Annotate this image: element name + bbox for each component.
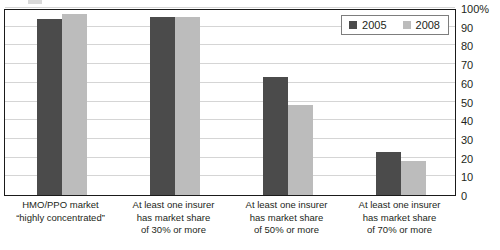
legend-label: 2008 xyxy=(416,19,440,31)
legend-swatch-icon xyxy=(403,21,411,29)
bar-2005-3 xyxy=(263,77,288,195)
y-tick-label-10: 10 xyxy=(461,172,473,183)
y-tick-label-20: 20 xyxy=(461,153,473,164)
y-tick-label-40: 40 xyxy=(461,116,473,127)
bar-2005-2 xyxy=(150,17,175,195)
top-crop-artifact xyxy=(28,0,42,4)
bar-group xyxy=(37,10,87,195)
x-axis: HMO/PPO market“highly concentrated”At le… xyxy=(4,199,456,247)
x-category-label-line: of 30% or more xyxy=(117,224,230,237)
legend-entry-2005: 2005 xyxy=(349,19,386,31)
y-tick-label-100: 100% xyxy=(461,4,489,15)
y-tick-label-60: 60 xyxy=(461,78,473,89)
bar-2008-3 xyxy=(288,105,313,195)
bar-2005-1 xyxy=(37,19,62,195)
bars-layer xyxy=(5,10,455,195)
y-axis: 100%9080706050403020100 xyxy=(461,9,499,196)
x-category-label-3: At least one insurerhas market shareof 5… xyxy=(230,199,343,237)
legend-swatch-icon xyxy=(349,21,357,29)
bar-group xyxy=(376,10,426,195)
x-category-label-line: HMO/PPO market xyxy=(4,199,117,212)
x-category-label-line: has market share xyxy=(117,212,230,225)
bar-2008-4 xyxy=(401,161,426,195)
gridline-100 xyxy=(5,7,455,8)
bar-group xyxy=(150,10,200,195)
y-tick-label-50: 50 xyxy=(461,97,473,108)
x-category-label-2: At least one insurerhas market shareof 3… xyxy=(117,199,230,237)
bar-2005-4 xyxy=(376,152,401,195)
bar-group xyxy=(263,10,313,195)
legend-entry-2008: 2008 xyxy=(403,19,440,31)
x-category-label-line: of 70% or more xyxy=(343,224,456,237)
x-category-label-line: “highly concentrated” xyxy=(4,212,117,225)
y-tick-label-0: 0 xyxy=(461,191,467,202)
x-category-label-4: At least one insurerhas market shareof 7… xyxy=(343,199,456,237)
y-tick-label-90: 90 xyxy=(461,22,473,33)
x-category-label-line: has market share xyxy=(343,212,456,225)
y-tick-label-70: 70 xyxy=(461,60,473,71)
x-category-label-line: At least one insurer xyxy=(230,199,343,212)
chart-legend: 20052008 xyxy=(341,15,449,35)
plot-frame: 20052008 xyxy=(4,9,456,196)
y-tick-label-30: 30 xyxy=(461,134,473,145)
legend-label: 2005 xyxy=(362,19,386,31)
x-category-label-line: At least one insurer xyxy=(117,199,230,212)
x-category-label-line: At least one insurer xyxy=(343,199,456,212)
bar-2008-2 xyxy=(175,17,200,195)
x-category-label-1: HMO/PPO market“highly concentrated” xyxy=(4,199,117,224)
bar-2008-1 xyxy=(62,14,87,195)
bar-chart-figure: 20052008 100%9080706050403020100 HMO/PPO… xyxy=(0,0,500,250)
plot-area xyxy=(5,10,455,195)
x-category-label-line: of 50% or more xyxy=(230,224,343,237)
y-tick-label-80: 80 xyxy=(461,41,473,52)
x-category-label-line: has market share xyxy=(230,212,343,225)
